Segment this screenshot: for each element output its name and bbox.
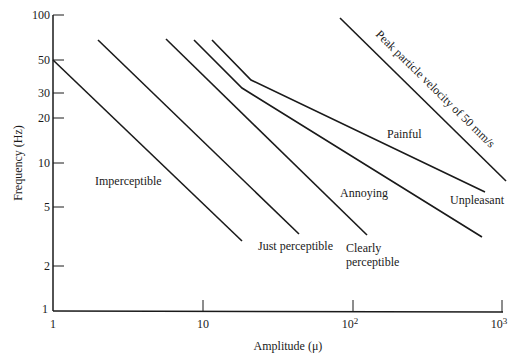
axes	[53, 15, 503, 312]
y-tick-20: 20	[38, 111, 50, 125]
line-velocity-50mms	[340, 18, 506, 181]
line-just-perceptible-boundary	[98, 40, 299, 234]
label-just-perceptible: Just perceptible	[258, 239, 333, 253]
x-tick-10: 10	[197, 317, 209, 331]
threshold-lines	[53, 18, 506, 241]
region-labels: Imperceptible Just perceptible Clearly p…	[95, 27, 505, 269]
y-tick-10: 10	[38, 156, 50, 170]
label-unpleasant: Unpleasant	[450, 193, 505, 207]
label-annoying: Annoying	[340, 186, 388, 200]
x-axis	[53, 311, 503, 312]
y-tick-labels: 100 50 30 20 10 5 2 1	[32, 8, 50, 316]
x-tick-1: 1	[50, 317, 56, 331]
y-axis-title: Frequency (Hz)	[11, 125, 25, 201]
line-unpleasant-boundary	[212, 40, 485, 192]
label-clearly-perceptible-1: Clearly	[346, 241, 381, 255]
y-tick-100: 100	[32, 8, 50, 22]
label-imperceptible: Imperceptible	[95, 174, 162, 188]
label-painful: Painful	[387, 127, 422, 141]
chart: 100 50 30 20 10 5 2 1 1 10 102 103 Ampli…	[0, 0, 525, 360]
label-clearly-perceptible-2: perceptible	[346, 255, 399, 269]
line-clearly-perceptible-boundary	[166, 39, 367, 235]
y-tick-5: 5	[44, 200, 50, 214]
y-tick-50: 50	[38, 53, 50, 67]
x-tick-labels: 1 10 102 103	[50, 316, 508, 331]
x-tick-1000: 103	[491, 316, 508, 331]
x-axis-title: Amplitude (μ)	[254, 339, 323, 353]
y-tick-1: 1	[42, 302, 48, 316]
y-tick-30: 30	[38, 86, 50, 100]
y-tick-2: 2	[44, 259, 50, 273]
x-tick-100: 102	[342, 316, 359, 331]
